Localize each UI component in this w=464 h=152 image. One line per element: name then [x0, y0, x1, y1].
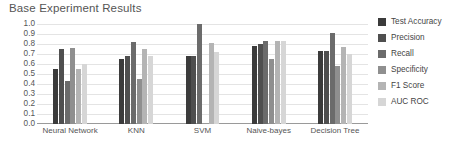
- x-axis-tick-label: Naive-bayes: [246, 126, 290, 135]
- bar[interactable]: [214, 52, 219, 124]
- bar[interactable]: [191, 56, 196, 124]
- bar[interactable]: [76, 69, 81, 124]
- y-axis-tick-label: 0.3: [24, 90, 35, 98]
- chart-container: Base Experiment Results 1.00.90.80.70.60…: [0, 0, 464, 152]
- y-axis-tick-label: 0.5: [24, 70, 35, 78]
- x-axis-tick-label: Decision Tree: [310, 126, 359, 135]
- legend-label: F1 Score: [391, 82, 424, 90]
- bar[interactable]: [65, 81, 70, 124]
- bar[interactable]: [59, 49, 64, 124]
- bar[interactable]: [82, 64, 87, 124]
- x-axis-tick-label: Neural Network: [43, 126, 98, 135]
- bar[interactable]: [137, 79, 142, 124]
- legend-item[interactable]: Recall: [378, 46, 464, 62]
- legend-swatch-icon: [378, 98, 386, 106]
- legend-label: Test Accuracy: [391, 18, 442, 26]
- bar-group: [103, 24, 169, 124]
- legend-swatch-icon: [378, 66, 386, 74]
- bar[interactable]: [269, 59, 274, 124]
- bar-group: [302, 24, 368, 124]
- legend-item[interactable]: Test Accuracy: [378, 14, 464, 30]
- y-axis-tick-label: 0.4: [24, 80, 35, 88]
- y-axis-tick-label: 0.6: [24, 60, 35, 68]
- bar-group: [169, 24, 235, 124]
- bar[interactable]: [119, 59, 124, 124]
- legend-swatch-icon: [378, 18, 386, 26]
- bar[interactable]: [281, 41, 286, 124]
- legend-label: Specificity: [391, 66, 428, 74]
- y-axis-tick-label: 0.7: [24, 50, 35, 58]
- plot-area: [37, 24, 368, 124]
- bar[interactable]: [186, 56, 191, 124]
- bar[interactable]: [335, 66, 340, 124]
- bar[interactable]: [341, 47, 346, 124]
- bar-group: [37, 24, 103, 124]
- y-axis-tick-label: 0.9: [24, 30, 35, 38]
- y-axis: 1.00.90.80.70.60.50.40.30.20.10.0: [12, 24, 35, 124]
- bar-group: [236, 24, 302, 124]
- chart-title: Base Experiment Results: [9, 2, 142, 14]
- bar[interactable]: [53, 69, 58, 124]
- bar[interactable]: [263, 41, 268, 124]
- legend-label: Precision: [391, 34, 425, 42]
- bar[interactable]: [252, 46, 257, 124]
- y-axis-tick-label: 0.2: [24, 100, 35, 108]
- bar[interactable]: [209, 43, 214, 124]
- bar[interactable]: [125, 56, 130, 124]
- legend-swatch-icon: [378, 50, 386, 58]
- chart-legend: Test AccuracyPrecisionRecallSpecificityF…: [378, 14, 464, 110]
- bar[interactable]: [131, 42, 136, 124]
- y-axis-tick-label: 0.8: [24, 40, 35, 48]
- legend-swatch-icon: [378, 82, 386, 90]
- x-axis-labels: Neural NetworkKNNSVMNaive-bayesDecision …: [37, 126, 368, 140]
- legend-item[interactable]: F1 Score: [378, 78, 464, 94]
- legend-swatch-icon: [378, 34, 386, 42]
- y-axis-tick-label: 0.0: [24, 120, 35, 128]
- legend-item[interactable]: AUC ROC: [378, 94, 464, 110]
- bar[interactable]: [142, 49, 147, 124]
- legend-item[interactable]: Specificity: [378, 62, 464, 78]
- bar[interactable]: [318, 51, 323, 124]
- legend-item[interactable]: Precision: [378, 30, 464, 46]
- x-axis-tick-label: SVM: [194, 126, 211, 135]
- bar[interactable]: [330, 33, 335, 124]
- bar[interactable]: [324, 51, 329, 124]
- bar[interactable]: [258, 44, 263, 124]
- bar[interactable]: [197, 24, 202, 124]
- bar[interactable]: [347, 54, 352, 124]
- bar[interactable]: [148, 56, 153, 124]
- legend-label: AUC ROC: [391, 98, 429, 106]
- y-axis-tick-label: 0.1: [24, 110, 35, 118]
- legend-label: Recall: [391, 50, 414, 58]
- x-axis-tick-label: KNN: [128, 126, 145, 135]
- y-axis-tick-label: 1.0: [24, 20, 35, 28]
- bar[interactable]: [275, 41, 280, 124]
- bar[interactable]: [70, 48, 75, 124]
